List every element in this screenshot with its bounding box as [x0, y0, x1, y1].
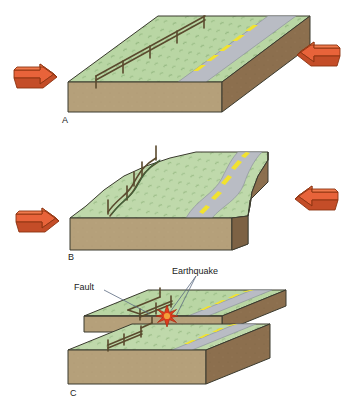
- panel-c-label: C: [70, 388, 77, 398]
- elastic-rebound-figure: A B C Fault Earthquake: [0, 0, 354, 414]
- panel-c-near-block: [68, 324, 270, 384]
- panel-b: [16, 146, 338, 250]
- panel-c-near-soil-front: [68, 350, 206, 384]
- panel-a-soil-front: [68, 82, 222, 112]
- panel-a-label: A: [62, 115, 68, 125]
- panel-b-label: B: [68, 252, 74, 262]
- panel-b-arrow-left: [16, 208, 59, 232]
- panel-a-arrow-left: [14, 64, 57, 88]
- panel-b-arrow-right: [295, 186, 338, 210]
- diagram-svg: [0, 0, 354, 414]
- fault-label: Fault: [74, 282, 94, 292]
- panel-b-soil-front: [70, 218, 232, 250]
- panel-a: [14, 16, 340, 112]
- earthquake-label: Earthquake: [172, 266, 218, 276]
- panel-b-soil-side-lower: [232, 216, 248, 250]
- panel-c: [68, 276, 286, 384]
